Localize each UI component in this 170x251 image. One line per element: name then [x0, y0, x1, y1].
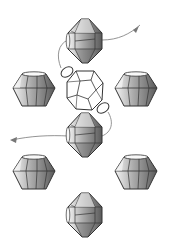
arrow-in-upper-right-icon: [133, 26, 139, 33]
beading-diagram: [0, 0, 170, 251]
bead-mid-right: [115, 72, 157, 106]
bead-mid-left: [13, 72, 55, 106]
arrow-out-left-icon: [10, 137, 17, 143]
bead-bottom: [66, 193, 102, 237]
bead-low-right: [115, 155, 157, 189]
bead-lower: [66, 113, 102, 157]
bead-top: [66, 19, 102, 63]
bead-low-left: [13, 155, 55, 189]
